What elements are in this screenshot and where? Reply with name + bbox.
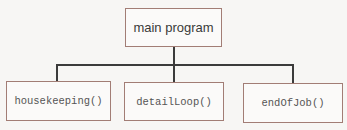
main-program-label: main program xyxy=(133,20,213,35)
main-program-box: main program xyxy=(125,8,222,47)
connector-right-vertical xyxy=(292,64,294,83)
end-of-job-label: endOfJob() xyxy=(261,97,324,109)
connector-left-vertical xyxy=(56,64,58,81)
detail-loop-box: detailLoop() xyxy=(124,82,224,121)
housekeeping-box: housekeeping() xyxy=(6,81,111,121)
connector-horizontal xyxy=(56,64,294,66)
connector-middle-vertical xyxy=(173,64,175,82)
detail-loop-label: detailLoop() xyxy=(136,96,212,108)
end-of-job-box: endOfJob() xyxy=(243,83,343,123)
housekeeping-label: housekeeping() xyxy=(14,95,102,107)
root-connector-vertical xyxy=(173,47,175,65)
